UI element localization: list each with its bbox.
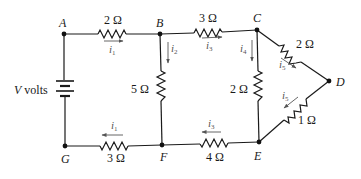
node-c-dot bbox=[255, 28, 260, 33]
node-label-a: A bbox=[58, 16, 67, 30]
resistor-bc-3ohm bbox=[194, 29, 222, 37]
node-e-dot bbox=[257, 140, 262, 145]
wire-f-g bbox=[65, 145, 162, 146]
resistor-label-cd: 2 Ω bbox=[296, 37, 314, 51]
current-label-i3-bottom: i3 bbox=[208, 117, 215, 131]
resistor-label-de: 1 Ω bbox=[298, 113, 316, 127]
current-label-i4: i4 bbox=[240, 42, 247, 56]
current-label-i1-bottom: i1 bbox=[111, 119, 118, 133]
resistor-fg-3ohm bbox=[100, 142, 128, 150]
node-label-c: C bbox=[253, 11, 262, 25]
wire-b-f bbox=[160, 34, 162, 145]
node-f-dot bbox=[160, 143, 165, 148]
resistor-ce-2ohm bbox=[254, 71, 262, 101]
resistor-label-bc: 3 Ω bbox=[199, 11, 217, 25]
current-label-i5-top: i5 bbox=[279, 58, 286, 72]
node-d-dot bbox=[327, 79, 332, 84]
resistor-label-ce: 2 Ω bbox=[230, 82, 248, 96]
wire-a-g bbox=[64, 34, 65, 146]
node-label-d: D bbox=[335, 75, 345, 89]
voltage-source-label: V volts bbox=[14, 83, 48, 97]
current-label-i5-bottom: i5 bbox=[282, 89, 289, 103]
node-g-dot bbox=[63, 144, 68, 149]
resistor-label-fg: 3 Ω bbox=[107, 151, 125, 165]
node-label-f: F bbox=[159, 150, 168, 164]
node-label-b: B bbox=[156, 16, 164, 30]
resistor-label-ab: 2 Ω bbox=[104, 13, 122, 27]
wire-e-f bbox=[162, 142, 259, 145]
current-label-i1-top: i1 bbox=[109, 43, 116, 57]
resistor-bf-5ohm bbox=[157, 71, 165, 101]
wire-c-d bbox=[257, 30, 329, 81]
battery-icon bbox=[56, 81, 74, 96]
resistor-label-ef: 4 Ω bbox=[206, 150, 224, 164]
resistor-label-bf: 5 Ω bbox=[131, 82, 149, 96]
node-label-e: E bbox=[253, 149, 262, 163]
node-a-dot bbox=[62, 32, 67, 37]
current-label-i3-top: i3 bbox=[206, 39, 213, 53]
wire-b-c bbox=[160, 30, 257, 34]
circuit-diagram: A B C D E F G 2 Ω 3 Ω 5 Ω 2 Ω 2 Ω 1 Ω 4 … bbox=[0, 0, 361, 179]
resistor-ab-2ohm bbox=[98, 30, 126, 38]
resistor-ef-4ohm bbox=[200, 139, 228, 147]
node-b-dot bbox=[158, 32, 163, 37]
current-arrow-i3-top bbox=[202, 37, 222, 38]
node-label-g: G bbox=[61, 152, 70, 166]
current-label-i2: i2 bbox=[171, 42, 178, 56]
